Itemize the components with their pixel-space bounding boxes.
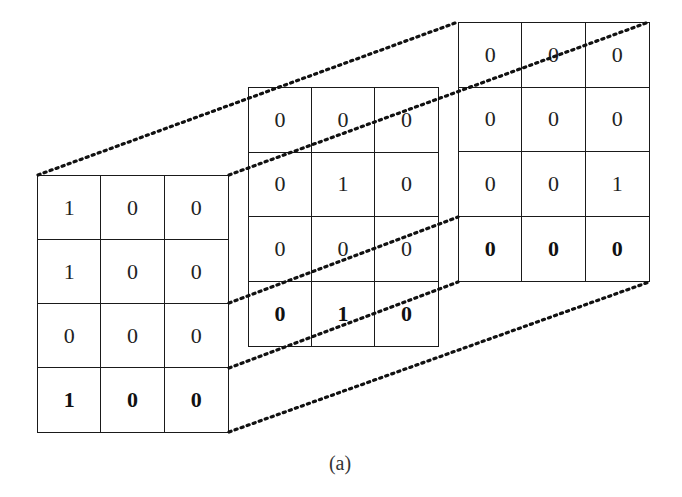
cell-bold: 0 — [459, 217, 522, 282]
cell: 1 — [312, 153, 375, 218]
cell-bold: 1 — [38, 368, 101, 432]
figure-caption: (a) — [310, 452, 370, 475]
cell: 0 — [375, 217, 438, 282]
cell: 0 — [101, 176, 164, 240]
cell-bold: 1 — [312, 282, 375, 347]
cell: 0 — [249, 88, 312, 153]
cell-bold: 0 — [249, 282, 312, 347]
cell: 0 — [522, 23, 585, 88]
cell: 0 — [459, 23, 522, 88]
cell: 1 — [38, 176, 101, 240]
cell: 0 — [312, 88, 375, 153]
cell-bold: 0 — [165, 368, 228, 432]
cell: 0 — [165, 176, 228, 240]
cell: 1 — [586, 152, 649, 217]
cell: 0 — [101, 304, 164, 368]
matrix-right: 0 0 0 0 0 0 0 0 1 0 0 0 — [458, 22, 650, 282]
cell: 0 — [249, 217, 312, 282]
cell: 0 — [459, 88, 522, 153]
cell: 0 — [165, 240, 228, 304]
cell: 0 — [375, 153, 438, 218]
cell: 0 — [586, 23, 649, 88]
cell-bold: 0 — [101, 368, 164, 432]
cell: 0 — [165, 304, 228, 368]
matrix-middle: 0 0 0 0 1 0 0 0 0 0 1 0 — [248, 87, 439, 347]
cell-bold: 0 — [586, 217, 649, 282]
matrix-left: 1 0 0 1 0 0 0 0 0 1 0 0 — [37, 175, 229, 433]
cell-bold: 0 — [375, 282, 438, 347]
cell: 0 — [375, 88, 438, 153]
cell: 0 — [522, 152, 585, 217]
cell: 0 — [586, 88, 649, 153]
cell: 1 — [38, 240, 101, 304]
cell: 0 — [38, 304, 101, 368]
cell: 0 — [459, 152, 522, 217]
cell: 0 — [101, 240, 164, 304]
cell: 0 — [312, 217, 375, 282]
cell: 0 — [522, 88, 585, 153]
cell-bold: 0 — [522, 217, 585, 282]
cell: 0 — [249, 153, 312, 218]
